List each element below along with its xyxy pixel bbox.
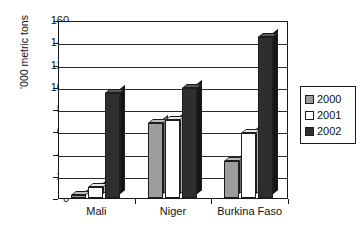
bar-face [224, 161, 239, 198]
bar-face [105, 93, 120, 198]
bar-niger-2002 [182, 88, 197, 198]
bar-face [88, 187, 103, 198]
x-axis-label-mali: Mali [58, 205, 135, 217]
bar-mali-2001 [88, 187, 103, 198]
x-axis-label-niger: Niger [135, 205, 212, 217]
bar-face [165, 120, 180, 198]
legend: 200020012002 [300, 86, 356, 144]
x-axis-label-burkina-faso: Burkina Faso [211, 205, 288, 217]
bar-burkina-faso-2002 [258, 37, 273, 198]
legend-swatch-2000 [305, 95, 314, 104]
bar-face [182, 88, 197, 198]
bar-group-mali [59, 22, 136, 198]
bar-chart: '000 metric tons 020406080100120140160 M… [0, 0, 363, 234]
legend-label-2002: 2002 [317, 126, 341, 137]
legend-label-2000: 2000 [317, 94, 341, 105]
legend-item-2002: 2002 [305, 123, 352, 139]
x-tick-1 [211, 199, 212, 204]
legend-swatch-2001 [305, 111, 314, 120]
bar-niger-2000 [148, 123, 163, 198]
legend-item-2000: 2000 [305, 91, 352, 107]
y-tick-0 [53, 199, 58, 200]
bar-face [241, 133, 256, 198]
legend-item-2001: 2001 [305, 107, 352, 123]
x-tick-0 [135, 199, 136, 204]
bar-group-niger [136, 22, 213, 198]
plot-area [58, 21, 288, 199]
bar-group-burkina-faso [212, 22, 289, 198]
bar-side [197, 80, 202, 194]
legend-label-2001: 2001 [317, 110, 341, 121]
bar-face [71, 195, 86, 198]
bar-side [273, 29, 278, 194]
bar-face [148, 123, 163, 198]
bar-face [258, 37, 273, 198]
bar-side [120, 86, 125, 194]
bar-burkina-faso-2001 [241, 133, 256, 198]
bar-burkina-faso-2000 [224, 161, 239, 198]
legend-swatch-2002 [305, 127, 314, 136]
bar-mali-2002 [105, 93, 120, 198]
bar-niger-2001 [165, 120, 180, 198]
x-tick-2 [288, 199, 289, 204]
bar-mali-2000 [71, 195, 86, 198]
